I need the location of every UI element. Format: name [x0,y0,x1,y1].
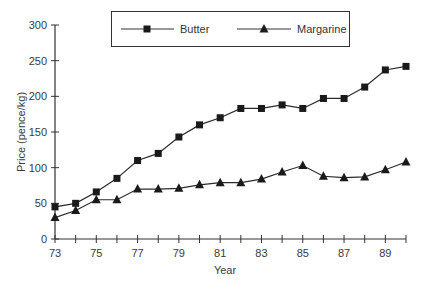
square-marker-icon [134,157,141,164]
square-marker-icon [113,175,120,182]
y-axis-title: Price (pence/kg) [15,92,27,172]
square-marker-icon [196,121,203,128]
x-tick-label: 85 [297,247,309,259]
square-marker-icon [341,95,348,102]
legend-label-margarine: Margarine [297,23,347,35]
square-marker-icon [237,105,244,112]
y-tick-label: 150 [29,126,47,138]
series-lines [51,63,411,221]
triangle-marker-icon [402,157,411,166]
square-marker-icon [93,188,100,195]
square-marker-icon [258,105,265,112]
triangle-marker-icon [133,184,142,193]
square-marker-icon [155,150,162,157]
square-marker-icon [403,63,410,70]
x-tick-label: 81 [214,247,226,259]
square-marker-icon [52,203,59,210]
square-marker-icon [320,95,327,102]
x-tick-label: 73 [49,247,61,259]
square-marker-icon [144,26,151,33]
x-tick-label: 83 [255,247,267,259]
x-tick-label: 77 [131,247,143,259]
series-line [55,66,406,207]
y-tick-label: 50 [35,197,47,209]
y-tick-label: 0 [41,233,47,245]
x-tick-label: 79 [173,247,185,259]
triangle-marker-icon [216,178,225,187]
x-axis-title: Year [214,264,237,276]
legend-label-butter: Butter [180,23,210,35]
square-marker-icon [382,66,389,73]
square-marker-icon [279,101,286,108]
triangle-marker-icon [154,184,163,193]
square-marker-icon [217,114,224,121]
y-tick-label: 100 [29,162,47,174]
square-marker-icon [299,105,306,112]
legend: Butter Margarine [112,12,350,47]
x-tick-label: 89 [379,247,391,259]
x-tick-label: 87 [338,247,350,259]
line-chart: 050100150200250300 737577798183858789 Pr… [0,0,425,290]
x-tick-label: 75 [90,247,102,259]
series-margarine [51,157,411,221]
triangle-marker-icon [92,195,101,204]
triangle-marker-icon [298,161,307,170]
triangle-marker-icon [319,171,328,180]
square-marker-icon [361,84,368,91]
series-line [55,162,406,218]
y-tick-label: 300 [29,19,47,31]
y-axis: 050100150200250300 [29,19,59,245]
series-butter [52,63,410,211]
square-marker-icon [175,133,182,140]
y-tick-label: 200 [29,90,47,102]
y-tick-label: 250 [29,55,47,67]
triangle-marker-icon [112,195,121,204]
x-axis: 737577798183858789 [49,235,406,259]
